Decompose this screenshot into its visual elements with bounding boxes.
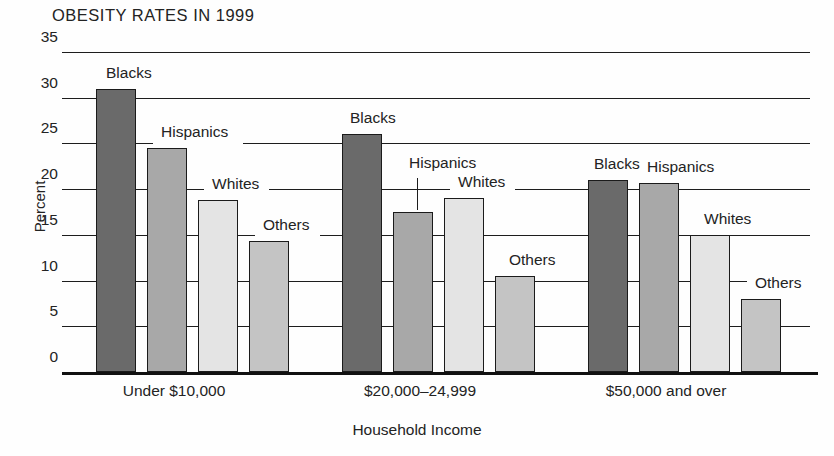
y-tick-label: 35 [12,28,58,46]
gridline [78,189,816,190]
bar-label: Others [259,216,314,234]
bar-whites-group-1 [198,200,238,372]
bar-others-group-3 [741,299,781,372]
gridline [78,143,816,144]
bar-others-group-2 [495,276,535,372]
bar-label: Blacks [102,64,156,82]
x-axis-baseline [62,372,818,375]
bar-label: Whites [208,175,263,193]
chart-title: OBESITY RATES IN 1999 [52,6,254,25]
bar-whites-group-2 [444,198,484,372]
bar-hispanics-group-2 [393,212,433,372]
chart-figure: OBESITY RATES IN 1999 Percent 0510152025… [0,0,834,456]
bar-label: Others [505,251,560,269]
bar-others-group-1 [249,241,289,372]
bar-label: Blacks [590,155,644,173]
y-tick-label: 0 [12,348,58,366]
bar-label: Hispanics [405,154,480,172]
bar-blacks-group-3 [588,180,628,372]
y-tick-label: 5 [12,302,58,320]
bar-label: Blacks [346,109,400,127]
y-tick-label: 25 [12,119,58,137]
x-category-label: $20,000–24,999 [312,382,528,400]
bar-blacks-group-2 [342,134,382,372]
x-category-label: $50,000 and over [558,382,774,400]
y-tick-label: 20 [12,165,58,183]
plot-area: 05101520253035 BlacksHispanicsWhitesOthe… [78,52,816,372]
bar-label: Hispanics [157,123,232,141]
bar-label: Hispanics [643,158,718,176]
bar-hispanics-group-3 [639,183,679,372]
bar-label: Whites [700,210,755,228]
gridline [78,98,816,99]
y-tick-label: 10 [12,257,58,275]
bar-label: Whites [454,173,509,191]
bar-hispanics-group-1 [147,148,187,372]
gridline [78,52,816,53]
x-category-label: Under $10,000 [66,382,282,400]
leader-line [417,178,418,210]
y-tick-label: 30 [12,74,58,92]
y-tick-label: 15 [12,211,58,229]
x-axis-label: Household Income [0,421,834,439]
bar-blacks-group-1 [96,89,136,372]
bar-whites-group-3 [690,235,730,372]
bar-label: Others [751,274,806,292]
